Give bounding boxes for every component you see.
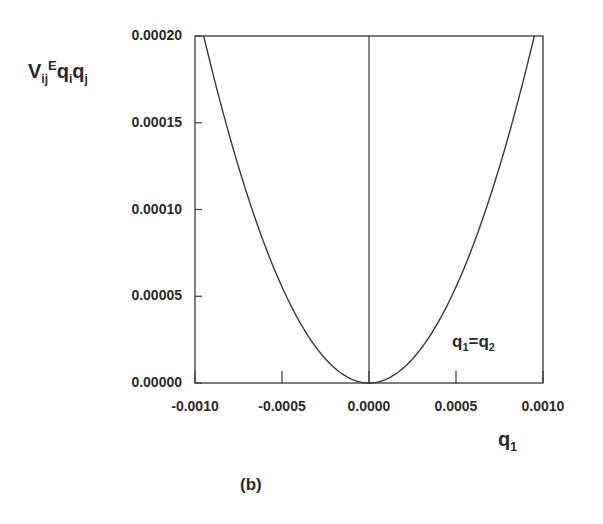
y-axis-label: VijEqiqj: [28, 58, 88, 86]
x-tick-label: -0.0005: [242, 398, 322, 414]
y-tick-label: 0.00020: [72, 27, 182, 43]
x-tick-label: 0.0000: [329, 398, 409, 414]
panel-label: (b): [240, 475, 262, 495]
x-tick-label: 0.0010: [503, 398, 583, 414]
x-tick-label: 0.0005: [416, 398, 496, 414]
y-tick-label: 0.00005: [72, 287, 182, 303]
x-axis-label: q1: [498, 428, 517, 454]
annotation-q1-equals-q2: q1=q2: [452, 332, 495, 353]
y-tick-label: 0.00010: [72, 201, 182, 217]
y-tick-label: 0.00000: [72, 374, 182, 390]
y-tick-label: 0.00015: [72, 114, 182, 130]
x-tick-label: -0.0010: [155, 398, 235, 414]
